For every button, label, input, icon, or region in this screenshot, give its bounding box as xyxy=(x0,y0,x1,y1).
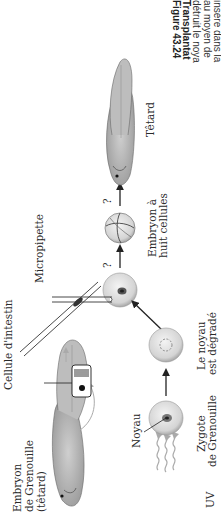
caption-line: insère dans la xyxy=(212,0,221,62)
caption-line: Figure 43.24 xyxy=(171,0,181,58)
question-mark-1: ? xyxy=(102,262,113,268)
enucleated-egg xyxy=(149,328,183,362)
label-zygote-line2: de Grenouille xyxy=(207,395,218,467)
caption-line: au moyen de xyxy=(202,0,212,58)
caption-line: détruit le noya xyxy=(191,0,201,63)
label-nucleus: Noyau xyxy=(131,414,142,448)
label-micropipette: Micropipette xyxy=(34,214,45,283)
label-donor-embryo-line3: (têtard) xyxy=(36,471,47,512)
label-eight-cell-line2: huit cellules xyxy=(158,193,169,258)
eight-cell-embryo xyxy=(105,213,135,243)
label-intestine-cell: Cellule d'intestin xyxy=(3,299,14,390)
uv-rays xyxy=(157,434,175,472)
label-degraded-line2: est dégradé xyxy=(207,312,218,375)
label-donor-embryo-line2: de Grenouille xyxy=(24,440,35,512)
label-uv: UV xyxy=(205,492,216,508)
intestine-cell-illustration xyxy=(72,365,91,397)
micropipette-with-nucleus xyxy=(20,282,101,356)
label-tadpole: Têtard xyxy=(145,102,156,137)
label-donor-embryo-line1: Embryon xyxy=(12,464,23,512)
question-mark-2: ? xyxy=(102,198,113,204)
caption-line: Transplantat xyxy=(181,0,191,59)
result-tadpole-illustration xyxy=(107,59,135,185)
